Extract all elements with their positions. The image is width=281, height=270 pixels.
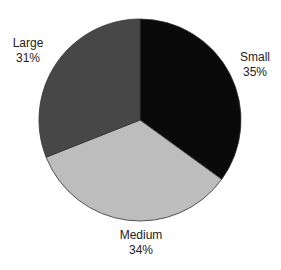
slice-label-medium-value: 34%	[120, 243, 163, 258]
slice-label-small-name: Small	[240, 50, 270, 65]
slice-label-large: Large 31%	[13, 36, 44, 66]
slice-label-medium: Medium 34%	[120, 228, 163, 258]
slice-label-large-name: Large	[13, 36, 44, 51]
pie-slices	[39, 19, 241, 221]
slice-label-large-value: 31%	[13, 51, 44, 66]
slice-label-small-value: 35%	[240, 65, 270, 80]
slice-label-small: Small 35%	[240, 50, 270, 80]
slice-label-medium-name: Medium	[120, 228, 163, 243]
